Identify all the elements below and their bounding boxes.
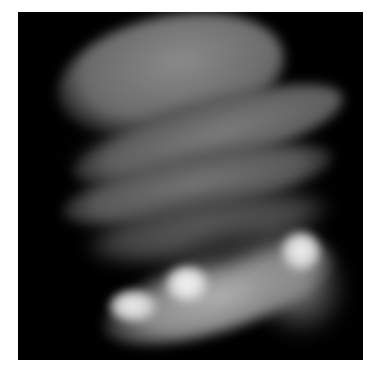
bright-spot-center (165, 265, 209, 303)
planet-image-frame (18, 12, 363, 360)
bright-spot-left (108, 289, 158, 323)
